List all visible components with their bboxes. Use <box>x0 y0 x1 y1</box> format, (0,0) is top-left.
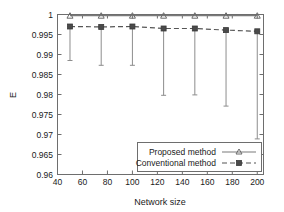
y-tick-label: 1 <box>48 10 53 20</box>
x-axis-tick-labels: 406080100120140160180200 <box>53 177 265 187</box>
data-point-marker <box>161 26 166 31</box>
y-axis-title: E <box>8 92 18 98</box>
y-tick-label: 0.96 <box>36 170 53 180</box>
y-tick-label: 0.965 <box>32 150 54 160</box>
x-axis-title: Network size <box>134 197 186 207</box>
x-tick-label: 80 <box>103 177 113 187</box>
y-tick-label: 0.98 <box>36 90 53 100</box>
data-point-marker <box>67 24 72 29</box>
x-tick-label: 40 <box>53 177 63 187</box>
y-tick-label: 0.97 <box>36 130 53 140</box>
data-point-marker <box>255 29 260 34</box>
x-tick-label: 180 <box>225 177 239 187</box>
data-point-marker <box>224 28 229 33</box>
data-point-marker <box>130 24 135 29</box>
chart-legend: Proposed method Conventional method <box>136 143 262 172</box>
y-tick-label: 0.975 <box>32 110 54 120</box>
x-tick-label: 140 <box>175 177 189 187</box>
data-point-marker <box>192 26 197 31</box>
x-tick-label: 100 <box>125 177 139 187</box>
x-tick-label: 60 <box>78 177 88 187</box>
x-tick-label: 120 <box>150 177 164 187</box>
chart-container: 0.960.9650.970.9750.980.9850.990.9951 40… <box>0 0 284 212</box>
legend-label-proposed: Proposed method <box>149 147 216 157</box>
x-tick-label: 160 <box>200 177 214 187</box>
x-tick-label: 200 <box>250 177 264 187</box>
y-tick-label: 0.99 <box>36 50 53 60</box>
error-bar-line-chart: 0.960.9650.970.9750.980.9850.990.9951 40… <box>0 0 284 212</box>
data-point-marker <box>99 24 104 29</box>
legend-label-conventional: Conventional method <box>136 158 217 168</box>
y-tick-label: 0.985 <box>32 70 54 80</box>
y-tick-label: 0.995 <box>32 30 54 40</box>
